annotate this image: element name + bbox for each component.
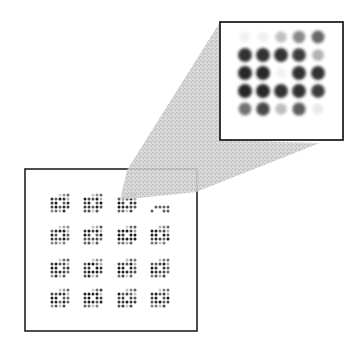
magnified-dot [238, 66, 252, 80]
motif-dot [155, 293, 158, 296]
motif-dot [163, 230, 166, 233]
motif-dot [134, 289, 137, 292]
motif-dot [55, 293, 58, 296]
magnified-dot [275, 103, 287, 115]
motif-dot [88, 242, 91, 245]
motif-dot [67, 226, 70, 229]
motif-dot [126, 289, 129, 292]
motif-dot [167, 210, 170, 213]
motif-dot [163, 297, 166, 300]
motif-dot [118, 238, 121, 241]
motif-dot [51, 301, 54, 304]
motif-dot [84, 234, 87, 237]
motif-dot [167, 238, 170, 241]
motif-dot [126, 238, 129, 241]
motif-dot [167, 230, 170, 233]
motif-dot [84, 242, 87, 245]
motif-dot [126, 305, 129, 308]
motif-dot [63, 238, 66, 241]
motif-dot [96, 194, 99, 197]
motif-dot [167, 267, 170, 270]
motif-dot [63, 194, 66, 197]
motif-dot [63, 275, 66, 278]
motif-dot [130, 271, 133, 274]
motif-dot [167, 259, 170, 262]
motif-dot [88, 301, 91, 304]
motif-dot [151, 242, 154, 245]
motif-dot [126, 226, 129, 229]
motif-dot [167, 271, 170, 274]
motif-dot [55, 210, 58, 213]
motif-dot [96, 234, 99, 237]
motif-dot [122, 297, 125, 300]
motif-dot [159, 230, 162, 233]
motif-dot [122, 230, 125, 233]
motif-dot [67, 293, 70, 296]
motif-dot [96, 297, 99, 300]
motif-dot [63, 198, 66, 201]
motif-dot [100, 293, 103, 296]
motif-dot [51, 198, 54, 201]
motif-dot [130, 202, 133, 205]
motif-dot [155, 271, 158, 274]
motif-dot [167, 206, 170, 209]
motif-dot [67, 301, 70, 304]
motif-dot [134, 259, 137, 262]
motif-dot [59, 206, 62, 209]
magnified-dot [238, 84, 252, 98]
motif-dot [130, 234, 133, 237]
motif-dot [67, 234, 70, 237]
motif-dot [122, 242, 125, 245]
motif-dot [96, 293, 99, 296]
magnified-dot [292, 48, 306, 62]
motif-dot [96, 238, 99, 241]
motif-dot [96, 259, 99, 262]
motif-dot [167, 263, 170, 266]
motif-dot [155, 305, 158, 308]
motif-dot [59, 293, 62, 296]
motif-dot [151, 234, 154, 237]
motif-dot [84, 198, 87, 201]
motif-dot [167, 297, 170, 300]
motif-dot [126, 263, 129, 266]
motif-dot [163, 242, 166, 245]
magnified-dot [276, 68, 287, 79]
motif-dot [92, 242, 95, 245]
motif-dot [88, 297, 91, 300]
motif-dot [51, 202, 54, 205]
magnified-dot [274, 84, 288, 98]
motif-dot [134, 206, 137, 209]
motif-dot [134, 238, 137, 241]
motif-dot [55, 297, 58, 300]
motif-dot [126, 293, 129, 296]
motif-dot [67, 194, 70, 197]
motif-dot [118, 263, 121, 266]
motif-dot [130, 293, 133, 296]
magnified-dot [256, 48, 270, 62]
motif-dot [96, 289, 99, 292]
magnified-dot [239, 103, 252, 116]
motif-dot [51, 293, 54, 296]
motif-dot [59, 301, 62, 304]
motif-dot [134, 271, 137, 274]
motif-dot [84, 275, 87, 278]
motif-dot [88, 238, 91, 241]
magnified-dot [293, 31, 305, 43]
motif-dot [92, 289, 95, 292]
motif-dot [118, 206, 121, 209]
motif-dot [51, 271, 54, 274]
motif-dot [134, 263, 137, 266]
motif-dot [151, 293, 154, 296]
motif-dot [63, 297, 66, 300]
motif-dot [92, 226, 95, 229]
motif-dot [100, 202, 103, 205]
motif-dot [55, 242, 58, 245]
motif-dot [130, 275, 133, 278]
motif-dot [118, 202, 121, 205]
motif-dot [84, 267, 87, 270]
motif-dot [59, 210, 62, 213]
motif-dot [118, 305, 121, 308]
motif-dot [122, 202, 125, 205]
motif-dot [122, 267, 125, 270]
motif-dot [59, 242, 62, 245]
